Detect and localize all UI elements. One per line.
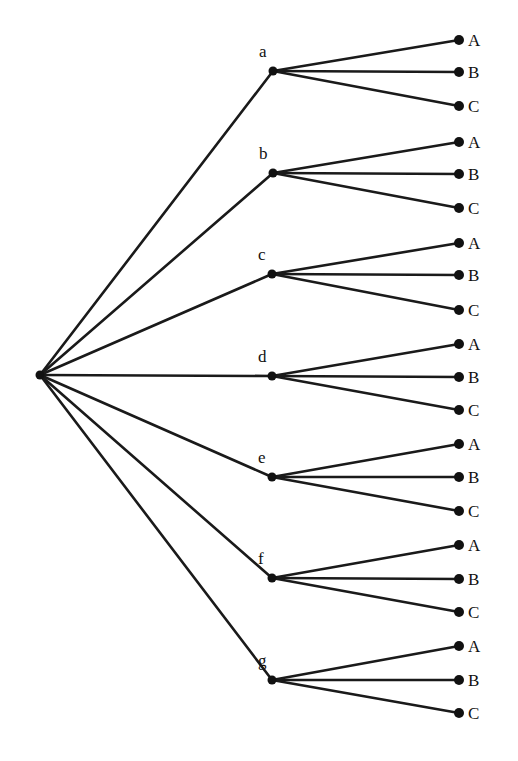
edge-root-a [40, 71, 273, 375]
edge-d-C [272, 376, 459, 410]
edge-d-B [272, 376, 459, 377]
edges [40, 40, 459, 713]
leaf-f-A [454, 540, 464, 550]
node-g [268, 676, 277, 685]
edge-root-g [40, 375, 272, 680]
leaf-label-a-B: B [468, 63, 479, 82]
tree-diagram-canvas: aABCbABCcABCdABCeABCfABCgABC [0, 0, 518, 761]
node-label-d: d [258, 347, 267, 366]
edge-a-B [273, 71, 459, 72]
leaf-b-C [454, 203, 464, 213]
root-node [36, 371, 45, 380]
leaf-label-b-C: C [468, 199, 479, 218]
edge-b-B [273, 173, 459, 174]
edge-a-C [273, 71, 459, 106]
node-b [269, 169, 278, 178]
leaf-label-g-B: B [468, 671, 479, 690]
leaf-e-A [454, 439, 464, 449]
edge-g-A [272, 646, 459, 680]
leaf-e-B [454, 472, 464, 482]
edge-c-B [272, 274, 459, 275]
leaf-label-d-B: B [468, 368, 479, 387]
edge-root-b [40, 173, 273, 375]
node-c [268, 270, 277, 279]
leaf-b-B [454, 169, 464, 179]
edge-c-A [272, 243, 459, 274]
leaf-label-f-B: B [468, 570, 479, 589]
leaf-label-f-A: A [468, 536, 481, 555]
leaf-label-e-A: A [468, 435, 481, 454]
edge-g-C [272, 680, 459, 713]
leaf-label-e-B: B [468, 468, 479, 487]
node-e [268, 473, 277, 482]
edge-root-c [40, 274, 272, 375]
leaf-label-g-A: A [468, 637, 481, 656]
leaf-label-d-A: A [468, 335, 481, 354]
leaf-c-A [454, 238, 464, 248]
leaf-a-C [454, 101, 464, 111]
edge-c-C [272, 274, 459, 310]
edge-a-A [273, 40, 459, 71]
leaf-label-f-C: C [468, 603, 479, 622]
leaf-g-B [454, 675, 464, 685]
edge-f-A [272, 545, 459, 578]
leaf-label-a-A: A [468, 31, 481, 50]
node-label-b: b [259, 144, 268, 163]
leaf-c-C [454, 305, 464, 315]
edge-root-d [40, 375, 272, 376]
node-f [268, 574, 277, 583]
leaf-d-B [454, 372, 464, 382]
node-d [268, 372, 277, 381]
node-label-g: g [258, 651, 267, 670]
leaf-e-C [454, 506, 464, 516]
leaf-label-e-C: C [468, 502, 479, 521]
leaf-c-B [454, 270, 464, 280]
leaf-f-B [454, 574, 464, 584]
edge-e-C [272, 477, 459, 511]
leaf-label-c-B: B [468, 266, 479, 285]
leaf-label-b-A: A [468, 133, 481, 152]
edge-d-A [272, 344, 459, 376]
node-label-f: f [258, 549, 264, 568]
node-a [269, 67, 278, 76]
leaf-label-d-C: C [468, 401, 479, 420]
edge-root-f [40, 375, 272, 578]
edge-f-C [272, 578, 459, 612]
edge-e-A [272, 444, 459, 477]
edge-b-C [273, 173, 459, 208]
leaf-label-c-A: A [468, 234, 481, 253]
leaf-g-A [454, 641, 464, 651]
leaf-a-A [454, 35, 464, 45]
leaf-d-A [454, 339, 464, 349]
leaf-label-g-C: C [468, 704, 479, 723]
leaf-label-b-B: B [468, 165, 479, 184]
edge-root-e [40, 375, 272, 477]
leaf-label-a-C: C [468, 97, 479, 116]
node-label-a: a [259, 42, 267, 61]
node-label-c: c [258, 245, 266, 264]
leaf-d-C [454, 405, 464, 415]
node-label-e: e [258, 448, 266, 467]
leaf-b-A [454, 137, 464, 147]
leaf-a-B [454, 67, 464, 77]
leaf-f-C [454, 607, 464, 617]
tree-diagram: aABCbABCcABCdABCeABCfABCgABC [0, 0, 518, 761]
edge-f-B [272, 578, 459, 579]
leaf-label-c-C: C [468, 301, 479, 320]
edge-b-A [273, 142, 459, 173]
leaf-g-C [454, 708, 464, 718]
